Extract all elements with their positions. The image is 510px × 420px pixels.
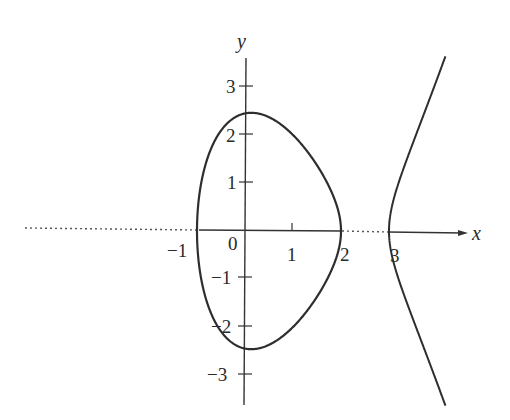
- y-tick-label-neg1: −1: [211, 267, 231, 288]
- elliptic-curve-plot: y x 0 −1 1 2 3 3 2 1 −1 −2 −3: [0, 0, 510, 420]
- x-tick-label-1: 1: [287, 244, 297, 265]
- x-axis-right: [388, 232, 463, 233]
- y-axis: [244, 58, 246, 405]
- y-tick-label-3: 3: [226, 76, 236, 97]
- x-axis-label: x: [471, 222, 481, 244]
- y-axis-label: y: [235, 30, 246, 53]
- y-tick-label-1: 1: [227, 172, 237, 193]
- y-tick-label-neg2: −2: [211, 316, 231, 337]
- dotted-x-axis-left: [25, 228, 199, 230]
- y-tick-label-neg3: −3: [207, 364, 227, 385]
- x-tick-label-neg1: −1: [167, 240, 187, 261]
- x-axis: [199, 230, 342, 231]
- dotted-x-axis-between-branches: [342, 231, 388, 232]
- origin-label: 0: [228, 233, 238, 254]
- x-tick-label-2: 2: [340, 244, 350, 265]
- x-axis-arrowhead: [458, 230, 468, 236]
- unbounded-branch-curve: [389, 56, 445, 405]
- x-tick-label-3: 3: [390, 245, 400, 266]
- y-tick-label-2: 2: [226, 125, 236, 146]
